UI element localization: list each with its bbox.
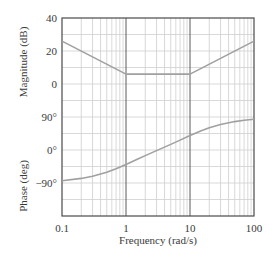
horizontal-gridlines: [62, 35, 254, 200]
phase-axis-label: Phase (deg): [17, 160, 30, 212]
x-tick-label: 100: [246, 222, 263, 234]
x-tick-labels: 0.1110100: [55, 222, 263, 234]
magnitude-tick-label: 40: [46, 12, 58, 24]
magnitude-curve: [62, 41, 254, 74]
x-axis-label: Frequency (rad/s): [119, 234, 197, 247]
phase-tick-label: 90°: [42, 111, 57, 123]
y-tick-labels: 02040−90°0°90°: [35, 12, 57, 189]
phase-tick-label: −90°: [35, 177, 57, 189]
phase-tick-label: 0°: [47, 144, 57, 156]
magnitude-tick-label: 20: [46, 45, 58, 57]
x-tick-label: 1: [123, 222, 129, 234]
bode-plot: 02040−90°0°90° 0.1110100 Magnitude (dB) …: [0, 0, 274, 258]
x-tick-label: 0.1: [55, 222, 69, 234]
x-tick-label: 10: [185, 222, 197, 234]
magnitude-axis-label: Magnitude (dB): [17, 26, 30, 97]
magnitude-tick-label: 0: [52, 78, 58, 90]
